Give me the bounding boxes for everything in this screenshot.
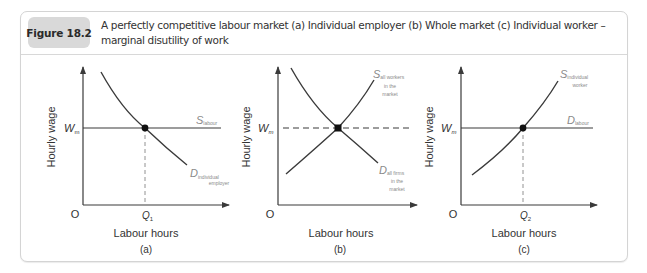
panel-a-q1-label: Q1 — [142, 210, 154, 222]
panel-b-equilibrium-point — [335, 125, 342, 132]
panel-b-label: (b) — [334, 244, 346, 255]
panel-b-demand-label: Dall firms — [379, 164, 405, 176]
panel-b-supply-label: Sall workers — [373, 68, 405, 80]
labour-market-diagrams: Hourly wage Wm Slabour Dindividual emplo… — [0, 0, 647, 273]
panel-a-equilibrium-point — [142, 125, 149, 132]
panel-b-demand-curve — [291, 68, 378, 163]
panel-a-demand-curve — [101, 72, 187, 165]
panel-a-wage-label: Wm — [64, 122, 79, 135]
panel-c-demand-label: Dlabour — [567, 114, 589, 126]
panel-b-x-axis-label: Labour hours — [309, 227, 374, 239]
panel-a-origin: O — [71, 208, 80, 220]
panel-b-supply-label-line3: market — [382, 91, 398, 97]
panel-c-individual-worker: Hourly wage Wm Sindividual worker Dlabou… — [423, 67, 597, 255]
panel-c-supply-label: Sindividual — [560, 68, 588, 80]
panel-b-wage-label: Wm — [258, 122, 273, 135]
panel-c-wage-label: Wm — [441, 122, 456, 135]
panel-a-demand-label-line2: employer — [209, 180, 230, 186]
panel-c-q2-label: Q2 — [520, 210, 532, 222]
panel-c-origin: O — [449, 208, 458, 220]
panel-b-supply-label-line2: in the — [384, 83, 396, 89]
panel-b-demand-label-line3: market — [389, 186, 405, 192]
panel-a-label: (a) — [140, 244, 152, 255]
panel-c-y-axis-label: Hourly wage — [423, 106, 435, 167]
panel-a-individual-employer: Hourly wage Wm Slabour Dindividual emplo… — [45, 67, 230, 255]
panel-a-demand-label: Dindividual — [190, 167, 219, 180]
panel-b-demand-label-line2: in the — [391, 178, 403, 184]
panel-c-supply-label-line2: worker — [572, 82, 587, 88]
panel-b-origin: O — [266, 208, 275, 220]
panel-b-whole-market: Hourly wage Wm Sall workers in the marke… — [240, 67, 417, 255]
panel-c-x-axis-label: Labour hours — [492, 227, 557, 239]
panel-c-equilibrium-point — [520, 125, 527, 132]
panel-b-y-axis-label: Hourly wage — [240, 106, 252, 167]
panel-c-label: (c) — [518, 244, 530, 255]
panel-a-y-axis-label: Hourly wage — [45, 106, 57, 167]
panel-a-supply-label: Slabour — [196, 114, 218, 126]
panel-a-x-axis-label: Labour hours — [114, 227, 179, 239]
panel-b-supply-curve — [286, 80, 374, 174]
